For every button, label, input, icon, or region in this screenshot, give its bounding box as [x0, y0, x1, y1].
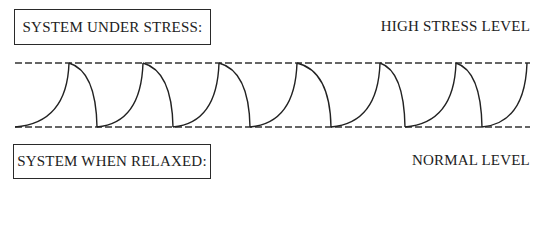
- system-when-relaxed-label: SYSTEM WHEN RELAXED:: [17, 153, 207, 170]
- normal-level-label: NORMAL LEVEL: [412, 152, 530, 169]
- stress-wave: [15, 63, 527, 127]
- level-lines: [15, 63, 530, 127]
- stress-cycle-curve: [15, 63, 527, 127]
- system-when-relaxed-box: SYSTEM WHEN RELAXED:: [13, 144, 211, 179]
